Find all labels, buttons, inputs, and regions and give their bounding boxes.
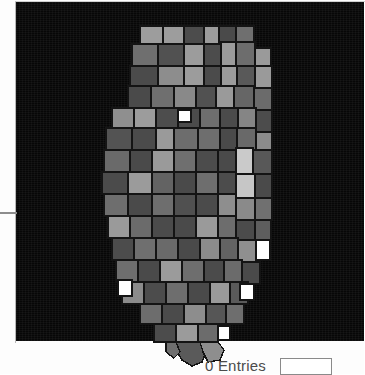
county-tip — [176, 342, 206, 366]
legend: 0 Entries — [205, 358, 332, 374]
county-tip — [166, 342, 180, 358]
legend-label: 0 Entries — [205, 358, 266, 374]
map-panel — [16, 2, 364, 341]
left-horizontal-rule — [0, 212, 17, 214]
legend-swatch-zero-entries — [280, 358, 332, 375]
